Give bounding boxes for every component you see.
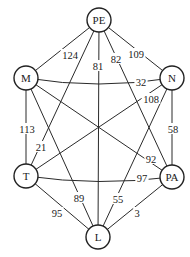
edge-weight-n-l: 55 <box>113 194 124 205</box>
edge-weight-pe-pa: 82 <box>111 54 122 65</box>
edge-pe-pa <box>99 20 172 177</box>
edge-weight-m-l: 89 <box>74 193 85 204</box>
graph-svg: 124109818221321138992108585597953 PEMNTP… <box>0 0 190 257</box>
edge-weight-m-t: 113 <box>19 124 34 135</box>
edge-weight-pe-t: 21 <box>36 142 47 153</box>
node-label: N <box>168 72 176 84</box>
node-label: T <box>23 170 30 182</box>
node-label: PE <box>93 14 106 26</box>
edge-t-pa <box>26 176 172 182</box>
node-pe: PE <box>87 8 111 32</box>
graph-diagram: 124109818221321138992108585597953 PEMNTP… <box>0 0 190 257</box>
edge-weight-n-pa: 58 <box>168 124 179 135</box>
node-pa: PA <box>160 165 184 189</box>
node-label: PA <box>165 171 178 183</box>
edge-pe-t <box>26 20 99 176</box>
edge-weight-pa-l: 3 <box>134 208 139 219</box>
edge-t-l <box>26 176 98 237</box>
edge-weight-m-pa: 92 <box>146 154 157 165</box>
edge-weight-pe-m: 124 <box>62 50 79 61</box>
node-l: L <box>86 225 110 249</box>
edge-weight-pe-n: 109 <box>128 49 144 60</box>
edge-weight-n-t: 108 <box>143 94 159 105</box>
edge-weight-m-n: 32 <box>136 77 147 88</box>
edge-weight-pe-l: 81 <box>93 61 104 72</box>
node-m: M <box>14 66 38 90</box>
edge-pe-l <box>98 20 99 237</box>
node-t: T <box>14 164 38 188</box>
node-label: M <box>21 72 31 84</box>
node-label: L <box>95 231 102 243</box>
edge-weight-t-l: 95 <box>52 208 63 219</box>
node-n: N <box>160 66 184 90</box>
edge-weight-t-pa: 97 <box>137 173 148 184</box>
edges-layer <box>26 20 172 237</box>
